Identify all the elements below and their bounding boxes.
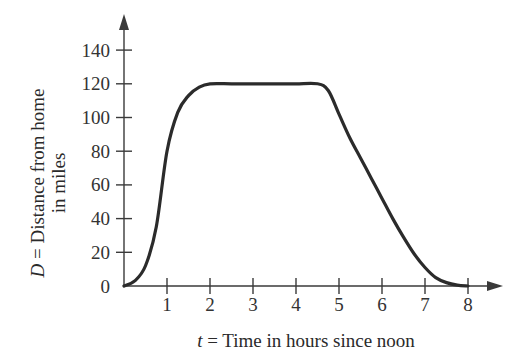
y-axis-label-line1: = Distance from home xyxy=(27,88,48,263)
y-axis-label: D = Distance from home in miles xyxy=(27,88,69,278)
y-tick-label: 100 xyxy=(82,107,111,128)
distance-curve xyxy=(124,83,468,286)
y-axis-arrow-icon xyxy=(119,14,129,30)
y-tick-label: 140 xyxy=(82,40,111,61)
x-axis-arrow-icon xyxy=(487,281,503,291)
x-tick-label: 3 xyxy=(248,294,258,315)
svg-text:D = Distance from home: D = Distance from home xyxy=(27,88,48,278)
x-tick-label: 4 xyxy=(291,294,301,315)
y-tick-label: 60 xyxy=(91,174,110,195)
y-tick-label: 20 xyxy=(91,242,110,263)
x-tick-label: 6 xyxy=(377,294,387,315)
y-axis-label-line2: in miles xyxy=(48,153,69,214)
x-tick-label: 1 xyxy=(162,294,172,315)
y-tick-label: 0 xyxy=(101,276,111,297)
x-tick-label: 5 xyxy=(334,294,344,315)
y-axis: 020406080100120140 xyxy=(82,14,133,297)
x-tick-label: 2 xyxy=(205,294,215,315)
x-tick-label: 8 xyxy=(463,294,473,315)
distance-time-chart: 020406080100120140 12345678 t = Time in … xyxy=(0,0,526,361)
x-axis-label: t = Time in hours since noon xyxy=(197,330,415,351)
y-axis-variable: D xyxy=(27,264,48,279)
y-tick-label: 40 xyxy=(91,208,110,229)
y-tick-label: 80 xyxy=(91,141,110,162)
x-axis-label-text: = Time in hours since noon xyxy=(202,330,415,351)
x-tick-label: 7 xyxy=(420,294,430,315)
y-tick-label: 120 xyxy=(82,73,111,94)
